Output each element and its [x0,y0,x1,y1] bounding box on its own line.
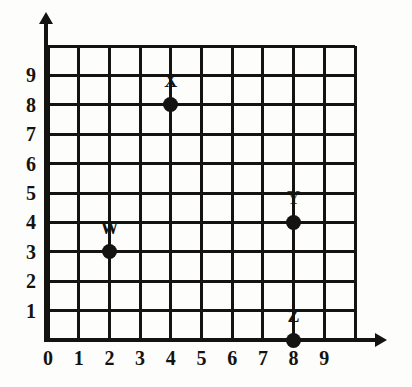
x-tick-label: 9 [314,348,334,368]
x-tick-label: 4 [161,348,181,368]
plot-area: WXYZ [48,46,355,340]
gridline-horizontal [48,45,355,48]
y-tick-label: 4 [14,212,36,232]
gridline-horizontal [48,103,355,106]
y-tick-label: 7 [14,124,36,144]
x-tick-label: 6 [222,348,242,368]
x-tick-label: 2 [99,348,119,368]
gridline-horizontal [48,250,355,253]
y-tick-label: 1 [14,301,36,321]
x-axis-arrow-icon [375,333,387,347]
x-tick-label: 5 [192,348,212,368]
y-tick-label: 3 [14,242,36,262]
x-tick-label: 1 [69,348,89,368]
gridline-horizontal [48,133,355,136]
gridline-horizontal [48,162,355,165]
x-tick-label: 7 [253,348,273,368]
x-tick-label: 8 [284,348,304,368]
y-axis-arrow-icon [39,12,53,24]
x-tick-label: 3 [130,348,150,368]
x-tick-label: 0 [38,348,58,368]
plotted-point-x [163,97,178,112]
y-tick-label: 8 [14,95,36,115]
gridline-horizontal [48,309,355,312]
gridline-horizontal [48,221,355,224]
plotted-point-z [286,333,301,348]
gridline-horizontal [48,192,355,195]
gridline-horizontal [48,280,355,283]
y-tick-label: 5 [14,183,36,203]
point-label-x: X [164,72,177,90]
point-label-w: W [100,219,118,237]
point-label-y: Y [287,189,300,207]
plotted-point-w [102,244,117,259]
plotted-point-y [286,215,301,230]
coordinate-grid-figure: WXYZ 0123456789 123456789 [0,0,412,387]
y-tick-label: 2 [14,271,36,291]
y-tick-label: 9 [14,65,36,85]
point-label-z: Z [288,307,300,325]
gridline-horizontal [48,74,355,77]
gridline-horizontal [48,339,355,342]
y-tick-label: 6 [14,154,36,174]
